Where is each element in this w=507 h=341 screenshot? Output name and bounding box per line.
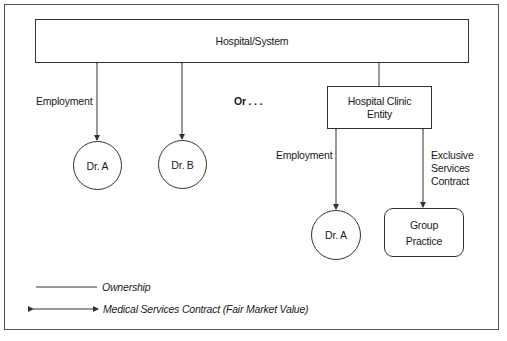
clinic-label-line1: Hospital Clinic	[348, 95, 412, 108]
employment-label-left: Employment	[36, 95, 92, 108]
contract-label-line3: Contract	[431, 175, 474, 188]
dr-b-label: Dr. B	[171, 159, 193, 171]
contract-label-line2: Services	[431, 162, 474, 175]
dr-a-left-node: Dr. A	[73, 141, 122, 190]
group-label-line1: Group	[410, 217, 438, 233]
hospital-system-box: Hospital/System	[35, 19, 469, 63]
contract-label-line1: Exclusive	[431, 149, 474, 162]
dr-a-right-node: Dr. A	[311, 210, 361, 260]
dr-a-left-label: Dr. A	[87, 160, 109, 172]
hospital-clinic-entity-box: Hospital Clinic Entity	[327, 86, 432, 129]
group-practice-box: Group Practice	[384, 208, 464, 257]
group-label-line2: Practice	[406, 233, 442, 249]
or-separator: Or . . .	[234, 95, 262, 108]
dr-a-right-label: Dr. A	[325, 229, 347, 241]
dr-b-node: Dr. B	[158, 140, 207, 189]
clinic-label-line2: Entity	[367, 108, 392, 121]
legend-ownership-label: Ownership	[102, 281, 150, 294]
hospital-system-label: Hospital/System	[216, 35, 289, 48]
exclusive-contract-label: Exclusive Services Contract	[431, 149, 474, 188]
employment-label-right: Employment	[276, 149, 332, 162]
legend-contract-label: Medical Services Contract (Fair Market V…	[103, 303, 308, 316]
